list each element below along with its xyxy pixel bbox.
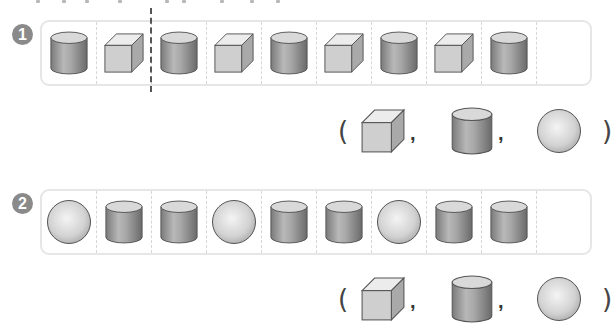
cube-icon (103, 32, 145, 74)
pattern-divider-line (150, 8, 152, 92)
sequence-cell (317, 22, 372, 84)
cylinder-icon (324, 199, 364, 245)
open-paren: ( (338, 284, 348, 314)
separator: , (498, 122, 504, 145)
problem-2-sequence-box (40, 189, 592, 255)
cube-icon (433, 32, 475, 74)
sequence-cell (42, 191, 97, 253)
cylinder-icon (104, 199, 144, 245)
sphere-icon (211, 199, 257, 245)
cropped-heading-text (0, 0, 616, 6)
choice-cube[interactable] (360, 108, 406, 154)
cylinder-icon (450, 274, 494, 324)
sequence-cell (427, 191, 482, 253)
cube-icon (360, 276, 406, 322)
cylinder-icon (159, 199, 199, 245)
sphere-icon (536, 108, 582, 154)
cube-icon (213, 32, 255, 74)
sequence-cell (262, 22, 317, 84)
cylinder-icon (489, 30, 529, 76)
answer-blank-cell[interactable] (537, 22, 590, 84)
sphere-icon (536, 276, 582, 322)
sequence-cell (482, 22, 537, 84)
cylinder-icon (269, 30, 309, 76)
problem-2-choices: ( , , ) (330, 274, 616, 324)
sequence-cell (97, 191, 152, 253)
separator: , (410, 122, 416, 145)
sequence-cell (372, 191, 427, 253)
sequence-cell (207, 22, 262, 84)
cube-icon (360, 108, 406, 154)
cube-icon (323, 32, 365, 74)
cylinder-icon (159, 30, 199, 76)
close-paren: ) (602, 116, 612, 146)
sequence-cell (482, 191, 537, 253)
sequence-cell (207, 191, 262, 253)
problem-2-badge: 2 (12, 193, 33, 214)
problem-1-choices: ( , , ) (330, 106, 616, 156)
cylinder-icon (379, 30, 419, 76)
problem-1-badge: 1 (12, 24, 33, 45)
sequence-cell (317, 191, 372, 253)
sequence-cell (152, 191, 207, 253)
cylinder-icon (489, 199, 529, 245)
close-paren: ) (602, 284, 612, 314)
choice-cylinder[interactable] (450, 106, 494, 156)
cylinder-icon (269, 199, 309, 245)
choice-cylinder[interactable] (450, 274, 494, 324)
sequence-cell (262, 191, 317, 253)
cylinder-icon (434, 199, 474, 245)
sequence-cell (427, 22, 482, 84)
sequence-cell (97, 22, 152, 84)
open-paren: ( (338, 116, 348, 146)
problem-1-sequence-box (40, 20, 592, 86)
choice-sphere[interactable] (536, 276, 582, 322)
sequence-cell (372, 22, 427, 84)
separator: , (410, 290, 416, 313)
choice-cube[interactable] (360, 276, 406, 322)
sequence-cell (42, 22, 97, 84)
choice-sphere[interactable] (536, 108, 582, 154)
cylinder-icon (49, 30, 89, 76)
cylinder-icon (450, 106, 494, 156)
sphere-icon (46, 199, 92, 245)
sequence-cell (152, 22, 207, 84)
answer-blank-cell[interactable] (537, 191, 590, 253)
sphere-icon (376, 199, 422, 245)
separator: , (498, 290, 504, 313)
